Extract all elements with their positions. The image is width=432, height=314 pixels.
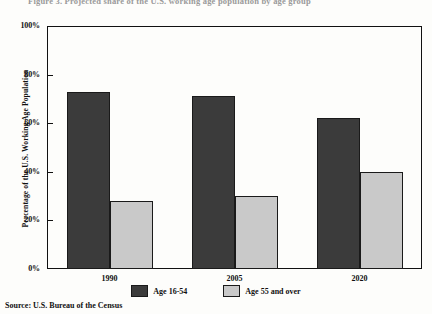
x-tick-label: 2005 [190,274,280,283]
y-tick-mark [47,172,53,173]
y-tick-label: 100% [2,21,40,30]
bar-chart-figure: Figure 3. Projected share of the U.S. wo… [0,0,432,314]
legend-swatch [223,285,240,297]
bar [360,172,403,269]
bar [67,92,110,269]
bar [192,96,235,269]
figure-caption-clipped: Figure 3. Projected share of the U.S. wo… [28,0,408,6]
source-note: Source: U.S. Bureau of the Census [5,301,122,310]
legend-entry: Age 16-54 [131,285,187,297]
bar [317,118,360,269]
bar [110,201,153,269]
y-tick-label: 60% [2,118,40,127]
y-tick-label: 0% [2,264,40,273]
y-tick-label: 20% [2,215,40,224]
y-tick-mark [47,123,53,124]
legend-entry: Age 55 and over [223,285,300,297]
y-tick-label: 40% [2,167,40,176]
y-tick-label: 80% [2,70,40,79]
y-tick-mark [47,75,53,76]
chart-legend: Age 16-54Age 55 and over [0,285,432,297]
x-tick-label: 1990 [65,274,155,283]
y-tick-mark [47,220,53,221]
legend-label: Age 55 and over [245,287,300,296]
legend-swatch [131,285,148,297]
legend-label: Age 16-54 [153,287,187,296]
bar [235,196,278,269]
x-tick-label: 2020 [315,274,405,283]
